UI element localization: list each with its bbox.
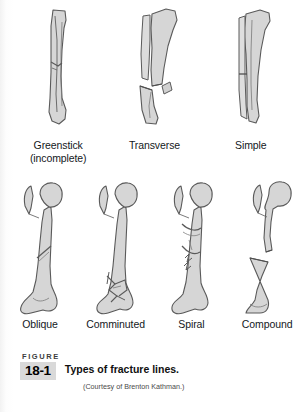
label-line-1: Spiral — [178, 318, 204, 330]
upper-fracture-row: Greenstick (incomplete) Transverse — [0, 0, 307, 170]
figure-item-label: Compound — [242, 318, 293, 331]
figure-item-label: Simple — [235, 139, 267, 152]
compound-fracture-illustration — [236, 180, 298, 316]
figure-caption-title: Types of fracture lines. — [65, 362, 179, 377]
figure-item-greenstick: Greenstick (incomplete) — [10, 6, 106, 170]
spiral-fracture-illustration — [160, 180, 222, 316]
figure-caption: FIGURE 18-1 Types of fracture lines. (Co… — [20, 352, 295, 391]
caption-main-line: 18-1 Types of fracture lines. — [20, 362, 295, 380]
figure-number-badge: 18-1 — [20, 362, 56, 380]
figure-item-label: Oblique — [22, 318, 58, 331]
label-line-1: Transverse — [129, 139, 180, 151]
figure-credit: (Courtesy of Brenton Kathman.) — [83, 382, 295, 391]
transverse-fracture-illustration — [126, 6, 182, 132]
label-line-1: Simple — [235, 139, 267, 151]
label-line-1: Compound — [242, 318, 293, 330]
greenstick-fracture-illustration — [35, 6, 81, 132]
figure-item-label: Spiral — [178, 318, 204, 331]
figure-item-oblique: Oblique — [2, 180, 78, 348]
figure-item-comminuted: Comminuted — [78, 180, 154, 348]
figure-item-label: Greenstick (incomplete) — [30, 139, 87, 165]
simple-fracture-illustration — [226, 6, 276, 132]
comminuted-fracture-illustration — [85, 180, 147, 316]
figure-item-compound: Compound — [229, 180, 305, 348]
figure-item-simple: Simple — [203, 6, 299, 170]
label-line-1: Greenstick — [34, 139, 83, 151]
label-line-2: (incomplete) — [30, 152, 87, 164]
figure-page: Greenstick (incomplete) Transverse — [0, 0, 307, 412]
label-line-1: Comminuted — [86, 318, 145, 330]
oblique-fracture-illustration — [9, 180, 71, 316]
figure-word-label: FIGURE — [22, 352, 295, 361]
label-line-1: Oblique — [22, 318, 58, 330]
figure-item-spiral: Spiral — [154, 180, 230, 348]
lower-fracture-row: Oblique Comminuted — [0, 176, 307, 348]
figure-item-transverse: Transverse — [106, 6, 202, 170]
figure-item-label: Comminuted — [86, 318, 145, 331]
figure-item-label: Transverse — [129, 139, 180, 152]
